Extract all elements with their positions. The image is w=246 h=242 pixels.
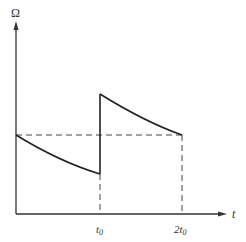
curve-segment-1 <box>16 135 100 174</box>
chart: Ω t t0 2t0 <box>0 0 246 242</box>
x-axis-arrow-icon <box>218 212 227 217</box>
y-axis-label: Ω <box>11 6 20 20</box>
tick-label-t0: t0 <box>96 223 103 237</box>
curve-segment-2 <box>100 94 182 135</box>
x-axis-label: t <box>232 207 236 221</box>
tick-label-2t0: 2t0 <box>174 223 187 237</box>
y-axis-arrow-icon <box>14 21 19 30</box>
